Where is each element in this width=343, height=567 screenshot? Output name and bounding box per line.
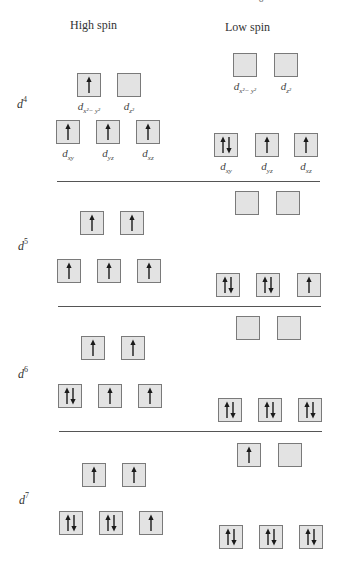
- spin-up-arrow-icon: [130, 340, 135, 357]
- spin-up-arrow-icon: [222, 277, 227, 294]
- spin-up-arrow-icon: [305, 529, 310, 546]
- orbital-d7-low-dz2: [278, 443, 302, 467]
- spin-up-arrow-icon: [106, 263, 111, 280]
- spin-up-arrow-icon: [264, 137, 269, 154]
- spin-down-arrow-icon: [230, 402, 235, 419]
- spin-up-arrow-icon: [65, 515, 70, 532]
- spin-up-arrow-icon: [129, 215, 134, 232]
- orbital-d7-low-dxz: [299, 525, 323, 549]
- spin-up-arrow-icon: [91, 467, 96, 484]
- orbital-d5-high-dx2y2: [80, 211, 104, 235]
- orbital-d5-high-dxy: [57, 259, 81, 283]
- spin-down-arrow-icon: [310, 402, 315, 419]
- orbital-d6-high-dxz: [138, 384, 162, 408]
- spin-up-arrow-icon: [64, 388, 69, 405]
- orbital-d6-low-dxy: [218, 398, 242, 422]
- orbital-d7-high-dz2: [122, 463, 146, 487]
- spin-down-arrow-icon: [226, 137, 231, 154]
- spin-down-arrow-icon: [71, 515, 76, 532]
- orbital-label-dxy: dxy: [62, 147, 74, 162]
- cropped-caption-top: …… ……… ……g……: [176, 0, 306, 2]
- orbital-d7-high-dxy: [59, 511, 83, 535]
- orbital-d5-low-dx2y2: [235, 191, 259, 215]
- orbital-d5-low-dyz: [256, 273, 280, 297]
- orbital-label-dyz: dyz: [102, 147, 113, 162]
- orbital-d4-high-dxy: [56, 120, 80, 144]
- orbital-label-dxz: dxz: [300, 160, 311, 175]
- orbital-d4-high-dx2y2: [77, 73, 101, 97]
- orbital-d6-low-dyz: [258, 398, 282, 422]
- orbital-d7-low-dx2y2: [237, 443, 261, 467]
- orbital-d6-high-dxy: [58, 384, 82, 408]
- config-label-d4: d4: [17, 96, 27, 112]
- spin-down-arrow-icon: [228, 277, 233, 294]
- spin-down-arrow-icon: [270, 402, 275, 419]
- spin-down-arrow-icon: [271, 529, 276, 546]
- orbital-d4-low-dz2: [274, 53, 298, 77]
- orbital-d4-high-dxz: [136, 120, 160, 144]
- orbital-d4-low-dxz: [294, 133, 318, 157]
- spin-up-arrow-icon: [148, 515, 153, 532]
- spin-down-arrow-icon: [70, 388, 75, 405]
- config-label-d5: d5: [18, 238, 28, 254]
- spin-up-arrow-icon: [225, 529, 230, 546]
- orbital-d5-low-dxy: [216, 273, 240, 297]
- orbital-d5-high-dxz: [137, 259, 161, 283]
- orbital-d7-high-dyz: [99, 511, 123, 535]
- spin-down-arrow-icon: [311, 529, 316, 546]
- spin-up-arrow-icon: [89, 215, 94, 232]
- spin-up-arrow-icon: [66, 263, 71, 280]
- spin-up-arrow-icon: [147, 388, 152, 405]
- orbital-d5-high-dyz: [97, 259, 121, 283]
- orbital-label-dxy: dxy: [220, 160, 232, 175]
- orbital-d5-low-dxz: [297, 273, 321, 297]
- orbital-label-dxz: dxz: [142, 147, 153, 162]
- orbital-label-dyz: dyz: [261, 160, 272, 175]
- orbital-d4-high-dz2: [117, 73, 141, 97]
- orbital-d6-low-dxz: [298, 398, 322, 422]
- spin-up-arrow-icon: [145, 124, 150, 141]
- spin-up-arrow-icon: [262, 277, 267, 294]
- spin-down-arrow-icon: [231, 529, 236, 546]
- spin-up-arrow-icon: [105, 515, 110, 532]
- orbital-d6-low-dx2y2: [236, 316, 260, 340]
- spin-up-arrow-icon: [303, 137, 308, 154]
- section-divider: [57, 181, 320, 182]
- column-header-high-spin: High spin: [70, 18, 117, 33]
- orbital-d4-low-dx2y2: [233, 53, 257, 77]
- orbital-label-dx2y2: dx²− y²: [78, 100, 100, 115]
- column-header-low-spin: Low spin: [225, 20, 270, 35]
- spin-up-arrow-icon: [265, 529, 270, 546]
- orbital-d6-high-dyz: [98, 384, 122, 408]
- spin-up-arrow-icon: [146, 263, 151, 280]
- orbital-d7-high-dxz: [139, 511, 163, 535]
- spin-up-arrow-icon: [105, 124, 110, 141]
- orbital-label-dz2: dz²: [281, 80, 291, 95]
- orbital-d4-low-dyz: [255, 133, 279, 157]
- orbital-d6-high-dx2y2: [81, 336, 105, 360]
- orbital-d7-low-dxy: [219, 525, 243, 549]
- spin-up-arrow-icon: [220, 137, 225, 154]
- section-divider: [58, 306, 321, 307]
- spin-up-arrow-icon: [306, 277, 311, 294]
- spin-up-arrow-icon: [107, 388, 112, 405]
- spin-up-arrow-icon: [246, 447, 251, 464]
- orbital-label-dx2y2: dx²− y²: [234, 80, 256, 95]
- spin-down-arrow-icon: [268, 277, 273, 294]
- orbital-d6-high-dz2: [121, 336, 145, 360]
- orbital-d5-low-dz2: [276, 191, 300, 215]
- orbital-d6-low-dz2: [277, 316, 301, 340]
- cropped-caption-bottom: …… ……… ……… …… ……: [195, 561, 343, 567]
- section-divider: [59, 431, 322, 432]
- spin-up-arrow-icon: [86, 77, 91, 94]
- orbital-d7-low-dyz: [259, 525, 283, 549]
- spin-up-arrow-icon: [131, 467, 136, 484]
- config-label-d6: d6: [18, 366, 28, 382]
- config-label-d7: d7: [19, 492, 29, 508]
- spin-up-arrow-icon: [264, 402, 269, 419]
- spin-up-arrow-icon: [90, 340, 95, 357]
- spin-up-arrow-icon: [304, 402, 309, 419]
- orbital-label-dz2: dz²: [124, 100, 134, 115]
- spin-up-arrow-icon: [65, 124, 70, 141]
- orbital-d4-low-dxy: [214, 133, 238, 157]
